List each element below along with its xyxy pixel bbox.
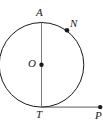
geometry-figure: A N O T P: [0, 0, 103, 124]
point-marker-O: [39, 63, 43, 67]
point-label-t: T: [36, 109, 42, 120]
point-label-n: N: [70, 18, 77, 29]
point-label-a: A: [36, 7, 43, 18]
figure-canvas: [0, 0, 103, 124]
point-label-o: O: [28, 58, 36, 69]
point-label-p: P: [95, 110, 102, 121]
point-marker-N: [65, 28, 70, 33]
